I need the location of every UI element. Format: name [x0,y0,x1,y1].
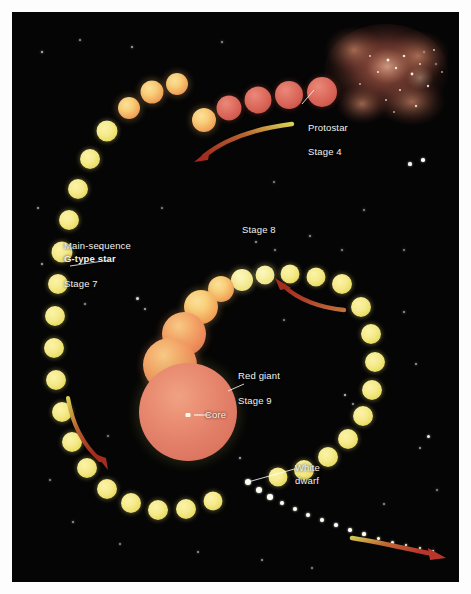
label-main-sequence-line2: G-type star [64,253,116,266]
label-white-dwarf-line2: dwarf [295,475,319,488]
white-dwarf-dot [334,523,338,527]
stellar-evolution-figure: Protostar Stage 4 Main-sequence G-type s… [0,0,471,594]
white-dwarf-dot [280,501,285,506]
background-star [341,249,342,250]
background-star [408,162,411,165]
protostar-sphere [275,81,303,109]
main-sequence-star [62,432,82,452]
inner-ring-star [332,274,352,294]
protostar-sphere [192,108,216,132]
inner-ring-star [281,265,300,284]
main-sequence-star [52,402,72,422]
nebula-cloud [300,16,459,134]
main-sequence-star [45,306,65,326]
white-dwarf-dot [348,528,351,531]
starfield-plate: Protostar Stage 4 Main-sequence G-type s… [12,12,459,582]
background-star [239,457,241,459]
background-star [419,447,421,449]
background-star [423,51,426,54]
expanding-star-sphere [231,269,253,291]
inner-ring-star [269,468,288,487]
background-star [383,503,385,505]
white-dwarf-dot [293,507,297,511]
main-sequence-star [44,338,64,358]
background-star [435,63,437,65]
white-dwarf-dot [320,518,324,522]
protostar-sphere [307,77,337,107]
arrow-bottom-curved-arrow-right-icon [348,532,454,568]
inner-ring-star [353,406,373,426]
white-dwarf-dot [432,550,435,553]
background-star [403,311,405,313]
background-star [352,403,354,405]
background-star [37,207,39,209]
main-sequence-star [176,499,196,519]
label-core: Core [205,409,226,422]
protostar-sphere [245,87,272,114]
white-dwarf-dot [377,537,380,540]
white-dwarf-dot [256,487,262,493]
label-protostar: Protostar [308,122,348,135]
label-stage-7: Stage 7 [64,278,98,291]
background-star [72,521,74,523]
background-star [415,363,417,365]
label-white-dwarf-line1: White [295,462,320,475]
label-stage-9: Stage 9 [238,395,272,408]
main-sequence-star [148,500,168,520]
background-star [41,51,43,53]
background-star [79,39,80,40]
main-sequence-star [118,97,140,119]
main-sequence-star [68,179,88,199]
inner-ring-star [318,447,338,467]
main-sequence-star [97,479,117,499]
background-star [136,297,139,300]
white-dwarf-dot [391,541,394,544]
background-star [255,241,257,243]
expanding-star-sphere [256,266,275,285]
protostar-sphere [217,96,242,121]
background-star [436,489,437,490]
white-dwarf-dot [362,532,365,535]
background-star [41,263,43,265]
white-dwarf-dot [267,494,272,499]
label-stage-8: Stage 8 [242,224,276,237]
main-sequence-star [46,370,66,390]
inner-ring-star [307,268,326,287]
background-star [107,435,108,436]
background-star [221,41,222,42]
background-star [274,249,275,250]
white-dwarf-dot [245,479,252,486]
main-sequence-star [97,121,118,142]
inner-ring-star [362,380,382,400]
background-star [311,567,312,568]
background-star [84,303,86,305]
background-star [427,435,430,438]
inner-ring-star [338,429,358,449]
background-star [283,319,284,320]
main-sequence-star [77,458,97,478]
background-star [344,394,347,397]
background-star [273,181,274,182]
inner-ring-star [365,352,385,372]
label-red-giant: Red giant [238,370,280,383]
main-sequence-star [121,493,141,513]
main-sequence-star [141,81,164,104]
main-sequence-star [166,73,188,95]
main-sequence-star [80,149,100,169]
white-dwarf-dot [405,544,408,547]
background-star [421,158,425,162]
background-star [161,207,162,208]
background-star [363,209,364,210]
white-dwarf-dot [306,513,310,517]
background-star [309,235,311,237]
main-sequence-star [204,492,223,511]
inner-ring-star [361,324,381,344]
white-dwarf-dot [419,547,422,550]
label-stage-4: Stage 4 [308,146,342,159]
core-marker-icon [186,413,191,417]
main-sequence-star [59,210,79,230]
background-star [261,559,263,561]
background-star [119,543,120,544]
background-star [144,308,146,310]
background-star [403,249,404,250]
